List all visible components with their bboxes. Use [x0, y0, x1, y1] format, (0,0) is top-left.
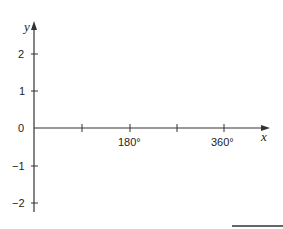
- x-tick-label: 180°: [118, 136, 141, 148]
- y-tick-label: −1: [12, 160, 25, 172]
- y-axis-arrow-icon: [31, 21, 37, 30]
- y-tick-label: 1: [19, 85, 25, 97]
- x-tick-label: 360°: [211, 136, 234, 148]
- y-tick-label: 2: [18, 48, 24, 60]
- chart-canvas: y x 2 1 0 −1 −2 180° 360°: [0, 0, 283, 229]
- y-axis-label: y: [22, 19, 30, 34]
- x-axis-label: x: [260, 129, 267, 144]
- y-tick-label: −2: [12, 197, 25, 209]
- y-tick-label: 0: [18, 122, 24, 134]
